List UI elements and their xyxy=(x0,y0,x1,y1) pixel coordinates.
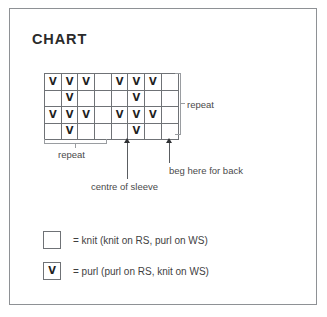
chart-cell-purl: V xyxy=(145,74,162,91)
stitch-chart-grid: VVVVVVVVVVVVVVVV xyxy=(44,73,179,140)
chart-cell-purl: V xyxy=(61,90,78,107)
chart-cell-knit xyxy=(78,90,95,107)
chart-cell-knit xyxy=(145,90,162,107)
centre-of-sleeve-leader xyxy=(127,143,128,179)
chart-cell-purl: V xyxy=(78,107,95,124)
chart-cell-purl: V xyxy=(111,74,128,91)
chart-cell-knit xyxy=(95,107,112,124)
page-title: CHART xyxy=(32,31,87,47)
chart-cell-purl: V xyxy=(45,74,62,91)
chart-row: VV xyxy=(45,90,179,107)
beg-here-for-back-leader xyxy=(169,143,170,163)
beg-here-for-back-label: beg here for back xyxy=(169,165,243,176)
chart-cell-purl: V xyxy=(128,74,145,91)
legend-label-purl: = purl (purl on RS, knit on WS) xyxy=(73,266,209,277)
chart-cell-knit xyxy=(45,90,62,107)
chart-cell-knit xyxy=(78,123,95,140)
chart-cell-purl: V xyxy=(128,90,145,107)
centre-of-sleeve-label: centre of sleeve xyxy=(91,181,158,192)
repeat-vertical-label: repeat xyxy=(187,99,214,110)
repeat-bracket-vertical-tick xyxy=(181,103,185,104)
chart-row: VVVVVV xyxy=(45,107,179,124)
chart-cell-purl: V xyxy=(111,107,128,124)
chart-cell-purl: V xyxy=(78,74,95,91)
chart-cell-purl: V xyxy=(61,123,78,140)
chart-cell-purl: V xyxy=(128,123,145,140)
chart-row: VVVVVV xyxy=(45,74,179,91)
chart-cell-knit xyxy=(95,74,112,91)
chart-cell-purl: V xyxy=(61,107,78,124)
chart-cell-purl: V xyxy=(45,107,62,124)
chart-cell-knit xyxy=(45,123,62,140)
chart-cell-knit xyxy=(95,123,112,140)
legend-label-knit: = knit (knit on RS, purl on WS) xyxy=(73,235,208,246)
chart-grid-body: VVVVVVVVVVVVVVVV xyxy=(45,74,179,140)
chart-cell-knit xyxy=(95,90,112,107)
legend-swatch-knit xyxy=(43,231,61,249)
chart-cell-purl: V xyxy=(145,107,162,124)
chart-cell-knit xyxy=(145,123,162,140)
chart-panel: CHART VVVVVVVVVVVVVVVV repeat repeat cen… xyxy=(9,8,317,305)
repeat-bracket-horizontal-tick xyxy=(75,144,76,148)
chart-row: VV xyxy=(45,123,179,140)
chart-cell-purl: V xyxy=(61,74,78,91)
chart-cell-knit xyxy=(111,90,128,107)
repeat-horizontal-label: repeat xyxy=(58,149,85,160)
legend-item-knit: = knit (knit on RS, purl on WS) xyxy=(43,231,208,249)
chart-grid-table: VVVVVVVVVVVVVVVV xyxy=(44,73,179,140)
chart-cell-purl: V xyxy=(128,107,145,124)
repeat-bracket-vertical xyxy=(175,73,181,135)
legend-swatch-purl: V xyxy=(43,262,61,280)
legend-item-purl: V = purl (purl on RS, knit on WS) xyxy=(43,262,209,280)
